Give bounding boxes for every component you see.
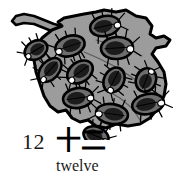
numeral-hanzi: 十二 xyxy=(56,128,106,154)
insect-11-head-highlight xyxy=(95,111,103,118)
numeral-row: 12 十二 xyxy=(22,128,106,155)
numeral-digits: 12 xyxy=(22,129,45,155)
leaf-with-insects-illustration xyxy=(0,0,180,140)
numeral-word-english: twelve xyxy=(56,156,99,175)
word-row: twelve xyxy=(56,156,99,175)
counting-flashcard: 12 十二 twelve xyxy=(0,0,180,179)
insect-9-head-highlight xyxy=(87,95,94,102)
caption-block: 12 十二 twelve xyxy=(0,128,180,179)
insect-3-head-highlight xyxy=(126,46,133,53)
